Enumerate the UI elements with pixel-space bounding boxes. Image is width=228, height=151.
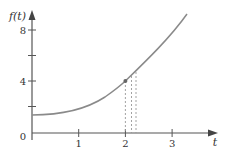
x-tick-label-2: 2 (122, 138, 128, 149)
y-tick-label-8: 8 (20, 25, 26, 36)
y-tick-label-4: 4 (20, 76, 26, 87)
x-axis-label: t (213, 136, 218, 149)
function-curve (32, 14, 187, 115)
origin-label: 0 (20, 131, 26, 142)
highlight-point (123, 79, 127, 83)
y-axis-arrow-icon (29, 10, 36, 20)
x-tick-label-3: 3 (169, 138, 175, 149)
chart: 1 2 3 0 4 8 f(t) t (0, 0, 228, 151)
y-axis-label: f(t) (8, 10, 26, 23)
x-tick-label-1: 1 (76, 138, 82, 149)
